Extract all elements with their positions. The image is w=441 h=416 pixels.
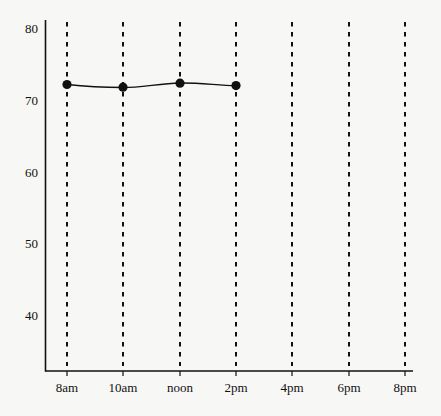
y-tick-label-60: 60 bbox=[10, 166, 38, 179]
x-tick-label-2pm: 2pm bbox=[224, 381, 247, 394]
x-tick-label-6pm: 6pm bbox=[337, 381, 360, 394]
data-point-2pm bbox=[231, 81, 240, 90]
data-point-8am bbox=[62, 80, 71, 89]
x-tick-label-noon: noon bbox=[167, 381, 193, 394]
chart-plot-area bbox=[0, 0, 441, 416]
x-tick-label-4pm: 4pm bbox=[280, 381, 303, 394]
x-tick-label-8pm: 8pm bbox=[393, 381, 416, 394]
line-chart: 80 70 60 50 40 8am 10am noon 2pm 4pm 6pm… bbox=[0, 0, 441, 416]
y-tick-label-80: 80 bbox=[10, 22, 38, 35]
y-tick-label-50: 50 bbox=[10, 237, 38, 250]
vertical-gridlines bbox=[67, 22, 405, 366]
y-tick-label-70: 70 bbox=[10, 94, 38, 107]
y-tick-label-40: 40 bbox=[10, 309, 38, 322]
data-point-10am bbox=[118, 83, 127, 92]
data-series-line bbox=[67, 83, 236, 88]
x-tick-label-10am: 10am bbox=[109, 381, 138, 394]
data-point-noon bbox=[175, 79, 184, 88]
axis-spines bbox=[45, 20, 413, 372]
x-tick-label-8am: 8am bbox=[56, 381, 78, 394]
